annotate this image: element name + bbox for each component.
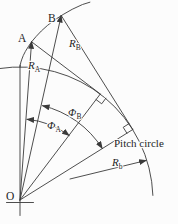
label-point-a: A: [18, 32, 27, 44]
label-pitch-circle: Pitch circle: [114, 137, 164, 149]
right-angle-marker-a: [96, 98, 106, 104]
tangent-line-a: [32, 42, 101, 94]
right-angle-marker-b: [123, 124, 129, 134]
label-angle-phi-a: ΦA: [47, 119, 61, 134]
base-radius-arrow: [70, 161, 146, 180]
involute-geometry-figure: B A O RB RA ΦA ΦB Pitch circle Rb: [0, 0, 178, 224]
label-radius-b: RB: [68, 37, 81, 52]
label-point-b: B: [48, 12, 56, 24]
label-origin: O: [6, 190, 14, 202]
label-angle-phi-b: ΦB: [68, 106, 81, 121]
